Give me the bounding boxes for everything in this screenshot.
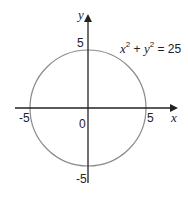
tick-origin: 0 <box>79 117 86 131</box>
tick-x-neg: -5 <box>19 111 30 125</box>
circle-diagram: y x 5 -5 5 -5 0 x2 + y2 = 25 <box>0 0 188 198</box>
x-axis-label: x <box>170 110 177 125</box>
tick-y-neg: -5 <box>76 172 87 186</box>
equation-label: x2 + y2 = 25 <box>119 40 182 56</box>
y-axis-label: y <box>76 7 84 22</box>
tick-x-pos: 5 <box>147 111 154 125</box>
tick-y-pos: 5 <box>77 36 84 50</box>
